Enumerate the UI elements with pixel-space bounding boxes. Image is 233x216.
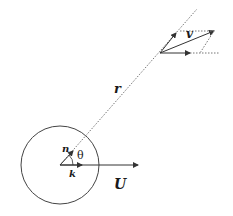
radius-label: r: [114, 81, 122, 96]
free-stream-label: U: [114, 176, 127, 192]
normal-label: n: [62, 143, 69, 154]
radius-line: [60, 9, 197, 165]
theta-arc: [69, 155, 73, 165]
flow-diagram: v r n θ k U: [0, 0, 233, 216]
k-label: k: [69, 168, 76, 179]
theta-label: θ: [77, 149, 84, 162]
velocity-label: v: [186, 27, 194, 41]
